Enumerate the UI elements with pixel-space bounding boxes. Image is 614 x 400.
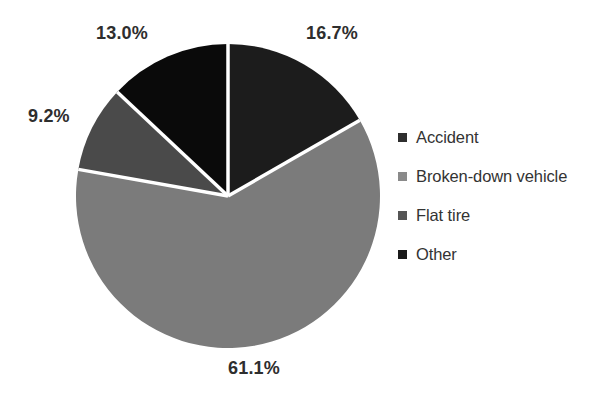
legend-swatch-icon bbox=[398, 250, 407, 259]
slice-label-accident: 16.7% bbox=[306, 23, 358, 44]
chart-legend: Accident Broken-down vehicle Flat tire O… bbox=[398, 118, 614, 274]
legend-item-broken-down-vehicle[interactable]: Broken-down vehicle bbox=[398, 157, 614, 196]
slice-label-flat-tire: 9.2% bbox=[28, 106, 70, 127]
pie-plot-area bbox=[0, 0, 400, 400]
legend-item-other[interactable]: Other bbox=[398, 235, 614, 274]
legend-item-label: Flat tire bbox=[416, 206, 470, 225]
legend-item-label: Accident bbox=[416, 128, 479, 147]
legend-swatch-icon bbox=[398, 172, 407, 181]
slice-label-other: 13.0% bbox=[96, 23, 148, 44]
legend-item-accident[interactable]: Accident bbox=[398, 118, 614, 157]
legend-item-flat-tire[interactable]: Flat tire bbox=[398, 196, 614, 235]
legend-item-label: Other bbox=[416, 245, 457, 264]
pie-svg bbox=[0, 0, 400, 400]
slice-label-broken-down-vehicle: 61.1% bbox=[228, 358, 280, 379]
legend-swatch-icon bbox=[398, 211, 407, 220]
pie-chart-figure: 13.0% 16.7% 9.2% 61.1% Accident Broken-d… bbox=[0, 0, 614, 400]
legend-item-label: Broken-down vehicle bbox=[416, 167, 567, 186]
legend-swatch-icon bbox=[398, 133, 407, 142]
